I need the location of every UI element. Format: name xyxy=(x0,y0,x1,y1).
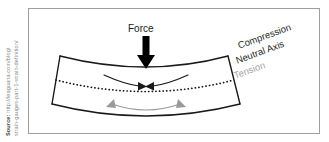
force-label: Force xyxy=(128,23,154,34)
compression-arrows xyxy=(104,75,188,86)
tension-arrow-shaft xyxy=(112,104,180,110)
compression-arrowhead-right xyxy=(145,82,154,91)
tension-arrowhead-left xyxy=(106,99,116,108)
tension-arrow xyxy=(106,99,186,110)
force-arrow-icon xyxy=(137,36,155,69)
tension-arrowhead-right xyxy=(176,99,186,108)
beam-svg xyxy=(0,0,329,142)
compression-arrow-left-shaft xyxy=(104,75,139,86)
compression-arrow-right-shaft xyxy=(153,75,188,86)
diagram-stage: Source: http://leaguana.com/blog/ strain… xyxy=(0,0,329,142)
beam-drawing xyxy=(0,0,329,142)
